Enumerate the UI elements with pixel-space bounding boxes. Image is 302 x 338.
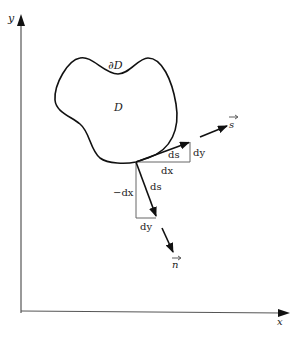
s-vector-label: s: [229, 115, 238, 130]
tangent-dx-label: dx: [161, 165, 173, 176]
x-axis: [21, 309, 290, 317]
n-vector-arrow: [162, 228, 173, 252]
diagram: y x ∂D D ds dy dx s −dx ds dy n: [0, 0, 302, 338]
n-vector-label: n: [172, 256, 181, 270]
normal-dy-label: dy: [140, 221, 152, 232]
tangent-ds-label: ds: [168, 149, 180, 160]
tangent-dy-label: dy: [193, 147, 205, 158]
tangent-triangle: [136, 142, 190, 162]
svg-text:s: s: [229, 119, 234, 130]
y-axis: [17, 14, 25, 313]
y-axis-label: y: [7, 12, 15, 25]
svg-text:n: n: [172, 259, 178, 270]
normal-ds-label: ds: [150, 181, 162, 192]
normal-neg-dx-label: −dx: [113, 187, 134, 198]
boundary-label: ∂D: [108, 59, 123, 72]
s-vector-arrow: [200, 126, 227, 137]
region-label: D: [113, 101, 123, 114]
x-axis-label: x: [277, 316, 283, 327]
